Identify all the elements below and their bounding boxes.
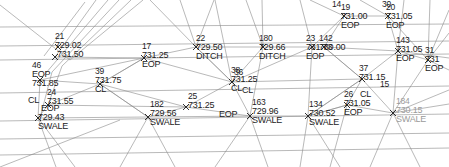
point-label-180[interactable]: 180 729.66 DITCH	[259, 34, 286, 61]
point-label-46[interactable]: 46 EOP 731.85	[32, 61, 58, 88]
point-description: EOP	[306, 52, 332, 61]
point-label-72[interactable]: 729.43 SWALE	[38, 113, 68, 131]
point-label-14[interactable]: 14	[332, 0, 341, 9]
point-number: 36	[234, 68, 243, 77]
point-label-20[interactable]: 20 731.05 EOP	[386, 3, 412, 30]
point-description: EOP	[41, 104, 59, 113]
point-description: EOP	[341, 21, 367, 30]
point-label-163[interactable]: 163 729.96 SWALE	[252, 98, 282, 125]
point-label-21[interactable]: 21 729.02	[55, 32, 81, 50]
point-description: SWALE	[38, 122, 68, 131]
point-description: CL	[28, 96, 39, 105]
point-elevation: 731.25	[188, 101, 214, 110]
point-description: DITCH	[196, 52, 223, 61]
point-description: SWALE	[150, 118, 180, 127]
point-label-16[interactable]: 731.50	[57, 50, 83, 59]
point-label-26-cl: CL	[360, 90, 371, 99]
point-label-163-cl: CL	[242, 86, 253, 95]
point-label-15[interactable]: 15	[380, 80, 389, 89]
point-label-19[interactable]: 19 731.00 EOP	[341, 3, 367, 30]
point-description: CL	[95, 85, 121, 94]
point-number: 14	[332, 0, 341, 9]
survey-drawing-canvas[interactable]: 21 729.02 731.50 46 EOP 731.85 CL 39 731…	[0, 0, 449, 167]
point-label-25[interactable]: 25 731.25	[188, 92, 214, 110]
point-label-182[interactable]: 182 729.56 SWALE	[150, 100, 180, 127]
point-description: EOP	[396, 54, 422, 63]
point-label-72-eop: EOP	[41, 104, 59, 113]
point-description: EOP	[425, 64, 443, 73]
point-description: SWALE	[396, 115, 426, 124]
point-label-134[interactable]: 134 730.52 SWALE	[309, 100, 339, 127]
point-description: SWALE	[309, 118, 339, 127]
point-label-22[interactable]: 22 729.50 DITCH	[196, 34, 223, 61]
point-label-31[interactable]: 31 731 EOP	[425, 46, 443, 73]
point-number: 15	[380, 80, 389, 89]
point-description: EOP	[142, 60, 168, 69]
point-description: CL	[360, 90, 371, 99]
point-description: EOP	[219, 110, 237, 119]
point-label-143[interactable]: 143 731.05 EOP	[396, 36, 422, 63]
point-description: EOP	[344, 108, 370, 117]
point-description: CL	[242, 86, 253, 95]
point-description: EOP	[386, 21, 412, 30]
point-description: SWALE	[252, 116, 282, 125]
point-label-39[interactable]: 39 731.75 CL	[95, 67, 121, 94]
point-description: DITCH	[259, 52, 286, 61]
point-label-36[interactable]: 36	[234, 68, 243, 77]
point-label-46-cl: CL	[28, 96, 39, 105]
point-elevation: 730.00	[319, 43, 345, 52]
point-label-17[interactable]: 17 731.25 EOP	[142, 42, 168, 69]
point-label-184[interactable]: 184 730.15 SWALE	[396, 97, 426, 124]
point-label-25-eop: EOP	[219, 110, 237, 119]
point-label-142[interactable]: 142 730.00	[319, 34, 345, 52]
point-elevation: 731.50	[57, 50, 83, 59]
